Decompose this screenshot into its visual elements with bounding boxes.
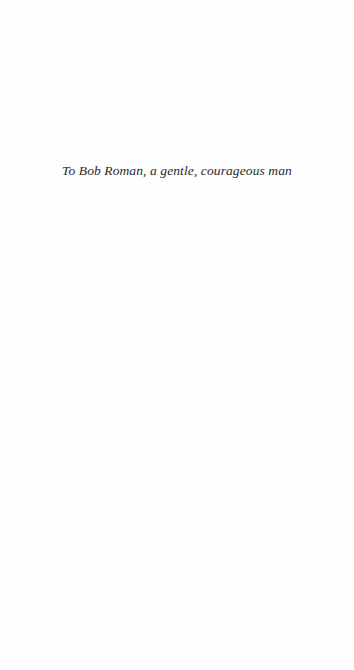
dedication-text: To Bob Roman, a gentle, courageous man [0,162,354,180]
book-page: To Bob Roman, a gentle, courageous man [0,0,354,670]
